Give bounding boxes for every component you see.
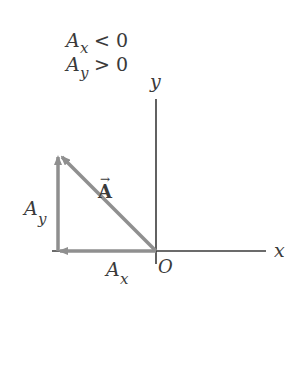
ax-label-subscript: x [120,270,129,288]
ay-symbol: A [64,53,80,75]
x-axis-label: x [274,239,285,261]
ay-label-subscript: y [37,210,47,228]
origin-label: O [158,256,173,277]
vector-a-label: → A [97,172,113,202]
ay-relation: > 0 [94,53,128,75]
vector-component-diagram: A x < 0 A y > 0 y x O → A A y A x [0,0,308,371]
ay-component-label: A y [22,197,47,228]
condition-ay-positive: A y > 0 [64,53,128,82]
ax-component-label: A x [104,258,129,288]
vector-a-symbol: A [97,181,113,202]
y-axis-label: y [149,70,161,92]
ax-symbol: A [64,29,80,51]
ay-subscript: y [79,64,89,82]
ay-label-symbol: A [22,197,38,219]
ax-label-symbol: A [104,258,120,280]
ax-subscript: x [80,39,89,57]
ax-relation: < 0 [94,29,128,51]
